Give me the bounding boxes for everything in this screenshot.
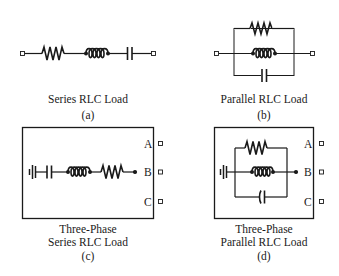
resistor-icon xyxy=(42,47,64,60)
ground-icon xyxy=(221,165,227,179)
right-terminal-port[interactable] xyxy=(152,52,156,56)
three-phase-series-rlc-block xyxy=(23,128,163,219)
port-label-c: C xyxy=(144,196,152,208)
port-label-a: A xyxy=(304,138,312,150)
inductor-icon xyxy=(67,167,91,176)
inductor-icon xyxy=(251,167,274,176)
port-b[interactable] xyxy=(159,170,163,174)
caption-three-phase-c: Three-Phase xyxy=(38,223,138,236)
left-terminal-port[interactable] xyxy=(215,52,219,56)
inductor-icon xyxy=(252,49,276,58)
port-c[interactable] xyxy=(320,200,324,204)
inductor-icon xyxy=(85,49,109,58)
port-b[interactable] xyxy=(320,170,324,174)
port-label-a: A xyxy=(144,138,152,150)
port-a[interactable] xyxy=(320,142,324,146)
caption-tag-a: (a) xyxy=(38,109,138,122)
caption-series-rlc-load-c: Series RLC Load xyxy=(38,236,138,249)
port-a[interactable] xyxy=(159,142,163,146)
port-c[interactable] xyxy=(159,200,163,204)
parallel-rlc-block xyxy=(215,23,315,82)
caption-three-phase-d: Three-Phase xyxy=(214,223,314,236)
ground-icon xyxy=(30,165,36,179)
port-label-c: C xyxy=(304,196,312,208)
series-rlc-block xyxy=(21,47,156,60)
caption-parallel-rlc-load-d: Parallel RLC Load xyxy=(214,236,314,249)
right-terminal-port[interactable] xyxy=(311,52,315,56)
capacitor-icon xyxy=(47,166,52,179)
caption-parallel-rlc: Parallel RLC Load xyxy=(214,93,314,106)
caption-series-rlc: Series RLC Load xyxy=(38,93,138,106)
port-label-b: B xyxy=(144,166,152,178)
capacitor-icon xyxy=(260,191,265,204)
resistor-icon xyxy=(245,142,267,155)
block-frame[interactable] xyxy=(215,128,314,219)
caption-tag-c: (c) xyxy=(38,250,138,263)
capacitor-icon xyxy=(128,47,133,60)
caption-tag-d: (d) xyxy=(214,250,314,263)
port-label-b: B xyxy=(304,166,312,178)
caption-tag-b: (b) xyxy=(214,109,314,122)
left-terminal-port[interactable] xyxy=(21,52,25,56)
resistor-icon xyxy=(101,166,123,179)
